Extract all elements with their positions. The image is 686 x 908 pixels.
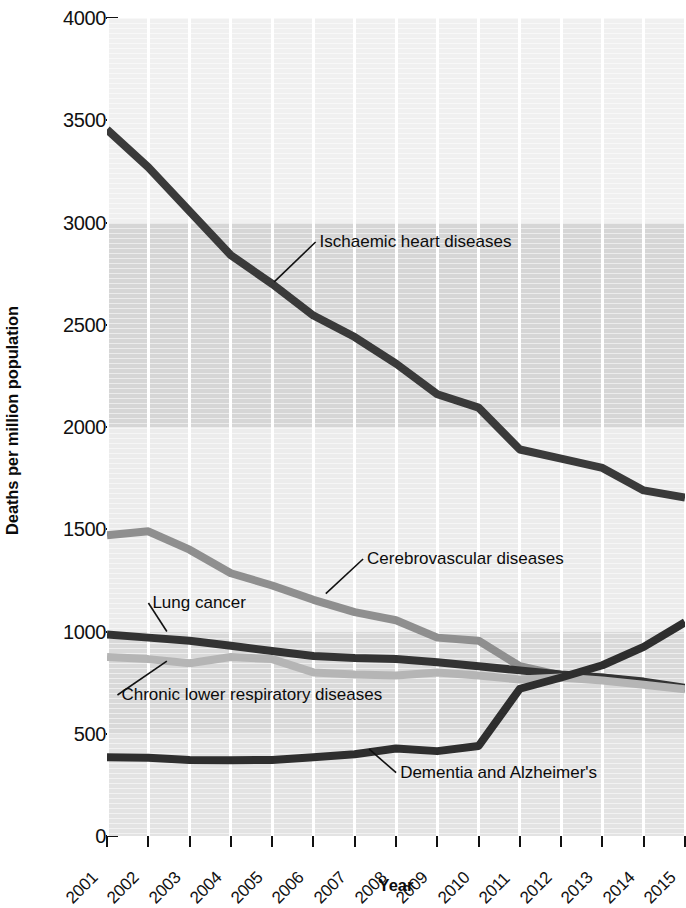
- x-tick-mark: [436, 836, 438, 847]
- x-tick-mark: [478, 836, 480, 847]
- x-tick-mark: [271, 836, 273, 847]
- series-label: Dementia and Alzheimer's: [400, 763, 597, 782]
- label-leader-line: [274, 242, 315, 282]
- x-tick-mark: [519, 836, 521, 847]
- y-tick-label: 2500: [28, 313, 106, 336]
- x-tick-mark: [230, 836, 232, 847]
- x-tick-mark: [106, 836, 108, 847]
- y-tick-label: 3500: [28, 109, 106, 132]
- y-tick-label: 2000: [28, 416, 106, 439]
- x-tick-mark: [643, 836, 645, 847]
- series-label: Chronic lower respiratory diseases: [121, 685, 382, 704]
- y-tick-label: 1000: [28, 620, 106, 643]
- x-tick-mark: [601, 836, 603, 847]
- label-leader-line: [369, 749, 396, 773]
- y-axis-ticks: 05001000150020002500300035004000: [26, 0, 106, 898]
- y-axis-title: Deaths per million population: [0, 0, 26, 840]
- y-tick-label: 3000: [28, 211, 106, 234]
- series-label: Ischaemic heart diseases: [320, 232, 512, 251]
- series-labels: Ischaemic heart diseasesCerebrovascular …: [107, 18, 685, 836]
- x-tick-mark: [560, 836, 562, 847]
- series-label: Lung cancer: [152, 593, 246, 612]
- x-tick-mark: [312, 836, 314, 847]
- y-tick-label: 1500: [28, 518, 106, 541]
- y-tick-label: 500: [28, 722, 106, 745]
- x-axis-title: Year: [107, 876, 685, 895]
- plot-area: Ischaemic heart diseasesCerebrovascular …: [107, 18, 685, 836]
- y-tick-label: 4000: [28, 7, 106, 30]
- series-label: Cerebrovascular diseases: [367, 549, 564, 568]
- x-tick-mark: [354, 836, 356, 847]
- label-leader-line: [326, 559, 363, 594]
- x-tick-mark: [395, 836, 397, 847]
- x-tick-mark: [189, 836, 191, 847]
- y-axis-title-text: Deaths per million population: [4, 305, 23, 534]
- x-tick-mark: [147, 836, 149, 847]
- y-tick-label: 0: [28, 825, 106, 848]
